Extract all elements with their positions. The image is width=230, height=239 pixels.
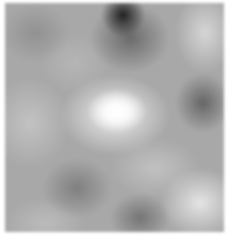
noise-texture-image [5, 3, 224, 232]
